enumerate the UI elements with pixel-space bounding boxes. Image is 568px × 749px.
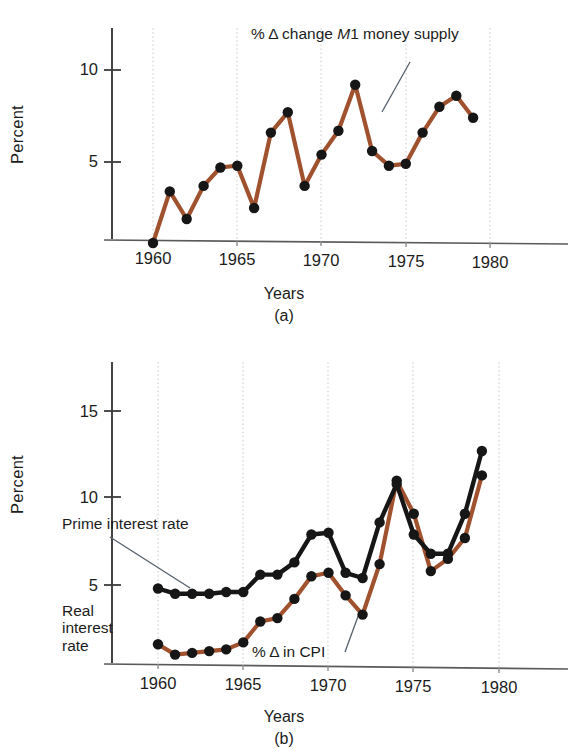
panel-b-cpi-leader: [345, 611, 360, 652]
panel-a-annotation-leader: [382, 62, 410, 112]
data-point: [170, 649, 180, 659]
panel-b-xtick-1965: 1965: [203, 675, 283, 694]
panel-a-annotation: % Δ change M1 money supply: [251, 25, 459, 42]
data-point: [221, 587, 231, 597]
panel-a-xtick-1960: 1960: [113, 249, 193, 268]
panel-a-xtick-1970: 1970: [281, 251, 361, 270]
panel-a-gridlines: [153, 28, 490, 243]
data-point: [232, 161, 242, 171]
panel-a-annotation-italic: M: [337, 25, 350, 42]
panel-b-prime-leader: [110, 537, 190, 588]
data-point: [299, 181, 309, 191]
data-point: [409, 509, 419, 519]
panel-b-prime-annotation: Prime interest rate: [62, 515, 189, 532]
data-point: [238, 637, 248, 647]
data-point: [392, 479, 402, 489]
data-point: [153, 583, 163, 593]
data-point: [417, 127, 427, 137]
data-point: [165, 186, 175, 196]
data-point: [170, 589, 180, 599]
data-point: [468, 113, 478, 123]
panel-b-label: (b): [0, 730, 568, 748]
data-point: [426, 549, 436, 559]
data-point: [460, 533, 470, 543]
data-point: [451, 91, 461, 101]
data-point: [266, 127, 276, 137]
data-point: [384, 161, 394, 171]
panel-b-xtick-1980: 1980: [459, 678, 539, 697]
data-point: [198, 181, 208, 191]
panel-b-xtick-1970: 1970: [288, 676, 368, 695]
chart-panel-b: Percent 15 10 5: [0, 330, 568, 749]
data-point: [367, 146, 377, 156]
panel-a-x-axis-title: Years: [0, 285, 568, 303]
panel-a-series-markers: [148, 80, 479, 249]
data-point: [401, 159, 411, 169]
data-point: [323, 568, 333, 578]
data-point: [306, 571, 316, 581]
data-point: [333, 126, 343, 136]
data-point: [316, 149, 326, 159]
panel-a-annotation-prefix: % Δ change: [251, 25, 337, 42]
panel-a-xtick-1965: 1965: [197, 250, 277, 269]
panel-a-xtick-1975: 1975: [366, 252, 446, 271]
panel-b-xtick-1975: 1975: [373, 677, 453, 696]
panel-b-real-annotation: Real interest rate: [62, 602, 113, 654]
data-point: [283, 107, 293, 117]
data-point: [357, 573, 367, 583]
panel-a-annotation-suffix: 1 money supply: [350, 25, 459, 42]
data-point: [350, 80, 360, 90]
data-point: [204, 589, 214, 599]
panel-a-x-axis: [104, 240, 568, 244]
data-point: [477, 446, 487, 456]
chart-panel-a: Percent 10 5: [0, 0, 568, 330]
data-point: [434, 102, 444, 112]
panel-b-real-annotation-line-1: Real: [62, 602, 113, 619]
data-point: [153, 639, 163, 649]
data-point: [272, 613, 282, 623]
panel-b-real-annotation-line-3: rate: [62, 637, 113, 654]
data-point: [255, 569, 265, 579]
data-point: [323, 528, 333, 538]
panel-b-gridlines: [158, 362, 499, 668]
data-point: [426, 566, 436, 576]
data-point: [443, 549, 453, 559]
data-point: [374, 559, 384, 569]
data-point: [306, 529, 316, 539]
panel-b-cpi-line: [158, 475, 482, 654]
data-point: [409, 529, 419, 539]
data-point: [460, 509, 470, 519]
data-point: [238, 587, 248, 597]
data-point: [182, 214, 192, 224]
data-point: [374, 517, 384, 527]
data-point: [221, 644, 231, 654]
panel-b-x-axis-title: Years: [0, 708, 568, 726]
data-point: [255, 616, 265, 626]
data-point: [289, 557, 299, 567]
panel-a-xtick-1980: 1980: [450, 253, 530, 272]
data-point: [340, 590, 350, 600]
panel-a-series-line: [153, 85, 473, 243]
data-point: [357, 609, 367, 619]
panel-b-real-annotation-line-2: interest: [62, 619, 113, 636]
data-point: [249, 203, 259, 213]
panel-b-cpi-annotation: % Δ in CPI: [252, 643, 325, 660]
data-point: [215, 162, 225, 172]
panel-a-label: (a): [0, 307, 568, 325]
data-point: [204, 646, 214, 656]
data-point: [272, 569, 282, 579]
data-point: [187, 648, 197, 658]
data-point: [148, 238, 158, 248]
data-point: [289, 594, 299, 604]
panel-b-xtick-1960: 1960: [118, 674, 198, 693]
data-point: [187, 589, 197, 599]
data-point: [340, 568, 350, 578]
data-point: [477, 470, 487, 480]
